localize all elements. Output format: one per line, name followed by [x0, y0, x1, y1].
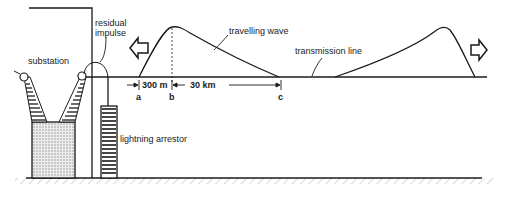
surge-diagram: 300 m 30 km a b c residual impulse subst…	[0, 0, 509, 198]
arrow-left-icon	[130, 38, 148, 58]
label-travelling-wave: travelling wave	[229, 26, 289, 36]
point-a: a	[136, 92, 142, 102]
right-bushing-insulator	[59, 72, 86, 122]
point-b: b	[169, 92, 175, 102]
dimension-300m: 300 m	[142, 80, 168, 90]
transformer	[32, 122, 75, 178]
label-residual: residual	[95, 18, 127, 28]
left-bushing-insulator	[14, 71, 47, 122]
label-lightning-arrestor: lightning arrestor	[120, 134, 187, 144]
point-c: c	[278, 92, 283, 102]
label-transmission-line: transmission line	[295, 46, 362, 56]
leader-lines	[100, 35, 322, 76]
dimension-30km: 30 km	[190, 80, 216, 90]
lightning-arrestor	[101, 77, 117, 178]
label-impulse: impulse	[95, 28, 126, 38]
arrow-right-icon	[471, 40, 487, 60]
ground	[15, 178, 495, 184]
label-substation: substation	[28, 56, 69, 66]
residual-impulse-curve	[84, 62, 108, 77]
